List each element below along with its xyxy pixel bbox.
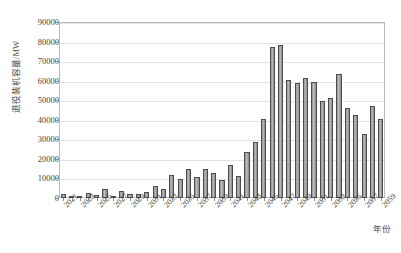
bar xyxy=(336,74,341,198)
y-tick-label: 70000 xyxy=(5,57,59,66)
x-tick-mark xyxy=(205,198,206,201)
y-tick-label: 40000 xyxy=(5,115,59,124)
x-tick-mark xyxy=(105,198,106,201)
top-caption xyxy=(8,0,338,9)
x-axis: 2021202320252027202920312033203520372039… xyxy=(59,198,385,244)
x-tick-mark xyxy=(255,198,256,201)
y-tick-label: 30000 xyxy=(5,135,59,144)
bar xyxy=(228,165,233,198)
bar xyxy=(345,108,350,198)
bar xyxy=(211,173,216,198)
y-tick-label: 80000 xyxy=(5,37,59,46)
x-tick-mark xyxy=(306,198,307,201)
x-tick-mark xyxy=(322,198,323,201)
bar xyxy=(362,134,367,198)
x-tick-mark xyxy=(356,198,357,201)
bar xyxy=(353,115,358,199)
bar xyxy=(328,98,333,198)
x-tick-mark xyxy=(222,198,223,201)
x-tick-mark xyxy=(122,198,123,201)
chart-figure: 退役装机容量/MW 010000200003000040000500006000… xyxy=(0,0,401,253)
bar-series xyxy=(59,22,385,198)
x-tick-mark xyxy=(72,198,73,201)
x-tick-mark xyxy=(239,198,240,201)
bar xyxy=(244,152,249,198)
bar xyxy=(270,47,275,198)
bar xyxy=(378,119,383,198)
x-tick-mark xyxy=(372,198,373,201)
x-tick-mark xyxy=(272,198,273,201)
x-tick-mark xyxy=(155,198,156,201)
x-tick-mark xyxy=(289,198,290,201)
bar xyxy=(370,106,375,198)
x-tick-mark xyxy=(339,198,340,201)
bar xyxy=(261,119,266,198)
bar xyxy=(278,45,283,198)
bar xyxy=(303,78,308,198)
y-tick-label: 50000 xyxy=(5,96,59,105)
y-tick-label: 60000 xyxy=(5,76,59,85)
x-tick-mark xyxy=(88,198,89,201)
y-tick-label: 20000 xyxy=(5,154,59,163)
x-tick-mark xyxy=(138,198,139,201)
bar xyxy=(178,179,183,198)
bar xyxy=(295,83,300,198)
bar xyxy=(320,101,325,198)
y-tick-label: 0 xyxy=(5,194,59,203)
bar xyxy=(286,80,291,198)
x-axis-title: 年份 xyxy=(373,224,391,234)
bar xyxy=(194,177,199,198)
y-tick-label: 90000 xyxy=(5,18,59,27)
x-tick-mark xyxy=(172,198,173,201)
bar xyxy=(253,142,258,198)
y-axis: 0100002000030000400005000060000700008000… xyxy=(0,22,59,198)
x-tick-mark xyxy=(189,198,190,201)
bar xyxy=(311,82,316,198)
y-tick-label: 10000 xyxy=(5,174,59,183)
